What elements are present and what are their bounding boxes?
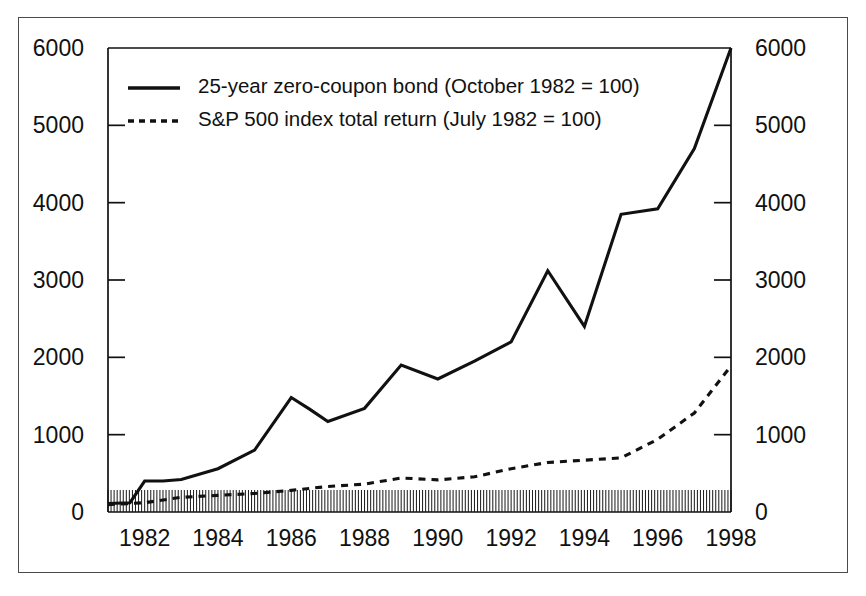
figure-container: 0100020003000400050006000 01000200030004… xyxy=(0,0,866,596)
y-axis-left-tick-label: 2000 xyxy=(33,344,84,370)
x-axis-monthly-ticks xyxy=(108,490,731,512)
y-axis-left-tick-label: 3000 xyxy=(33,267,84,293)
y-axis-right-tick-label: 2000 xyxy=(755,344,806,370)
series-line-sp500-total-return xyxy=(108,366,731,505)
legend-label-sp500: S&P 500 index total return (July 1982 = … xyxy=(198,107,602,130)
x-axis-tick-label: 1982 xyxy=(119,525,170,551)
y-axis-left-tick-label: 4000 xyxy=(33,190,84,216)
y-axis-right-tick-label: 1000 xyxy=(755,422,806,448)
x-axis-tick-label: 1998 xyxy=(705,525,756,551)
chart-legend: 25-year zero-coupon bond (October 1982 =… xyxy=(128,74,640,130)
y-axis-right-tick-labels: 0100020003000400050006000 xyxy=(755,35,806,525)
y-axis-left-tick-labels: 0100020003000400050006000 xyxy=(33,35,84,525)
y-axis-right-tick-label: 5000 xyxy=(755,112,806,138)
y-axis-right-tick-label: 6000 xyxy=(755,35,806,61)
x-axis-tick-label: 1988 xyxy=(339,525,390,551)
legend-label-zero-coupon-bond: 25-year zero-coupon bond (October 1982 =… xyxy=(198,74,640,97)
y-axis-left-tick-label: 6000 xyxy=(33,35,84,61)
y-axis-left-tick-label: 0 xyxy=(71,499,84,525)
y-axis-left-tick-label: 5000 xyxy=(33,112,84,138)
x-axis-tick-label: 1996 xyxy=(632,525,683,551)
x-axis-tick-label: 1986 xyxy=(266,525,317,551)
y-axis-right-tick-label: 3000 xyxy=(755,267,806,293)
x-axis-tick-label: 1992 xyxy=(486,525,537,551)
y-axis-left-ticks xyxy=(108,125,125,434)
y-axis-right-ticks xyxy=(714,125,731,434)
x-axis-tick-labels: 198219841986198819901992199419961998 xyxy=(119,525,757,551)
x-axis-tick-label: 1984 xyxy=(192,525,243,551)
line-chart: 0100020003000400050006000 01000200030004… xyxy=(0,0,866,596)
y-axis-right-tick-label: 0 xyxy=(755,499,768,525)
x-axis-tick-label: 1990 xyxy=(412,525,463,551)
x-axis-tick-label: 1994 xyxy=(559,525,610,551)
y-axis-right-tick-label: 4000 xyxy=(755,190,806,216)
y-axis-left-tick-label: 1000 xyxy=(33,422,84,448)
